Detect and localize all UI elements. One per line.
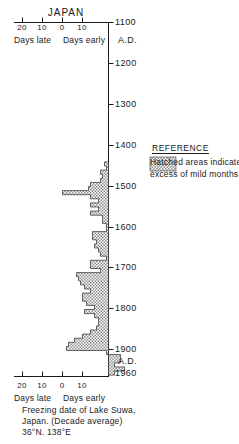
x-tick-top-10r: 10: [72, 24, 92, 32]
x-axis-top: [14, 18, 108, 23]
ad-label-bottom: A.D.: [118, 357, 137, 366]
y-tick-1960: 1960: [115, 369, 137, 378]
x-tick-bottom-10r: 10: [72, 382, 92, 390]
figure-container: JAPAN 20 10 0 10 Days late Days early 20…: [0, 0, 239, 444]
caption-line-2: Japan. (Decade average): [22, 417, 123, 426]
days-late-label-top: Days late: [14, 36, 51, 45]
x-tick-bottom-0: 0: [52, 382, 72, 390]
days-late-label-bottom: Days late: [14, 394, 51, 403]
x-tick-bottom-20: 20: [12, 382, 32, 390]
y-tick-1500: 1500: [115, 182, 137, 191]
y-tick-1300: 1300: [115, 100, 137, 109]
x-tick-top-0: 0: [52, 24, 72, 32]
x-axis-bottom: [14, 372, 108, 377]
y-tick-1900: 1900: [115, 345, 137, 354]
y-tick-1100: 1100: [115, 18, 136, 27]
y-tick-1700: 1700: [115, 263, 137, 272]
x-tick-bottom-10l: 10: [32, 382, 52, 390]
caption-line-3: 36°N. 138°E: [22, 428, 71, 437]
reference-line-2: excess of mild months: [150, 170, 238, 179]
y-tick-1400: 1400: [115, 141, 137, 150]
x-tick-top-20: 20: [12, 24, 32, 32]
reference-heading: REFERENCE: [152, 144, 209, 154]
reference-line-1: Hatched areas indicate: [150, 158, 239, 167]
days-early-label-top: Days early: [63, 36, 105, 45]
y-tick-1200: 1200: [115, 59, 137, 68]
page-title: JAPAN: [0, 8, 132, 18]
ad-label-top: A.D.: [118, 36, 137, 45]
y-tick-1600: 1600: [115, 223, 137, 232]
y-axis: [109, 22, 114, 377]
caption-line-1: Freezing date of Lake Suwa,: [22, 406, 136, 415]
x-tick-top-10l: 10: [32, 24, 52, 32]
y-tick-1800: 1800: [115, 304, 137, 313]
days-early-label-bottom: Days early: [63, 394, 105, 403]
